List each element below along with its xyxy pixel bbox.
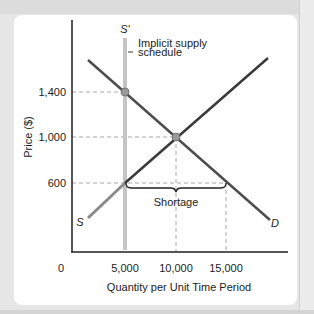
shortage-label: Shortage	[154, 196, 199, 208]
supply-curve-lower	[88, 183, 125, 218]
supply-label: S	[76, 216, 84, 228]
y-tick-600: 600	[48, 177, 66, 189]
supply-curve-upper	[125, 58, 268, 183]
supply-demand-chart: 1,400 1,000 600 0 5,000 10,000 15,000 Qu…	[0, 0, 314, 314]
x-tick-0: 0	[58, 262, 64, 274]
x-tick-15000: 15,000	[209, 262, 243, 274]
equilibrium-point	[172, 133, 180, 141]
x-tick-10000: 10,000	[159, 262, 193, 274]
y-axis-title: Price ($)	[22, 116, 34, 158]
implicit-supply-label: S'	[120, 23, 130, 35]
demand-label: D	[271, 217, 279, 229]
annotation-line-2: schedule	[138, 46, 182, 58]
x-tick-5000: 5,000	[111, 262, 139, 274]
black-market-point	[121, 88, 129, 96]
y-tick-1000: 1,000	[38, 131, 66, 143]
x-axis-title: Quantity per Unit Time Period	[107, 281, 251, 293]
y-tick-1400: 1,400	[38, 86, 66, 98]
